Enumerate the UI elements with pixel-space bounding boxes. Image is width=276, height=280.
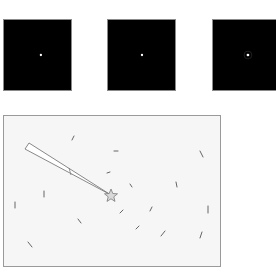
thumbnail-2 [107, 19, 176, 91]
figure-stage [0, 0, 276, 280]
point-source-halo-icon [213, 20, 276, 90]
point-source-icon [108, 20, 175, 90]
scene-panel [3, 115, 221, 267]
thumbnail-1 [3, 19, 72, 91]
wedge-beam-icon [25, 143, 111, 195]
scene-drawing [4, 116, 220, 266]
thumbnail-3 [212, 19, 276, 91]
star-icon [105, 189, 118, 201]
point-source-icon [4, 20, 71, 90]
